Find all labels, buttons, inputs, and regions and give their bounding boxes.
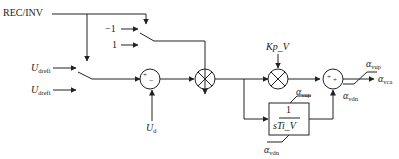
sum1-plus-sign: + [143, 72, 147, 79]
diagram-lines [0, 0, 399, 159]
sum2-plus-sign-2: + [333, 77, 337, 84]
output-lower-limit: αvdn [343, 91, 358, 103]
sum1-minus-sign: − [149, 77, 154, 85]
output-signal-label: αvca [378, 74, 392, 86]
mode-input-label: REC/INV [3, 8, 43, 18]
sum2-plus-sign-1: + [327, 74, 331, 81]
integrator-lower-limit: αvdn [264, 145, 279, 157]
integrator-numerator: 1 [286, 105, 291, 115]
ref2-label: Udrefi [31, 85, 51, 97]
measured-voltage-label: Ud [146, 123, 156, 135]
integrator-denominator: sTi_V [273, 121, 296, 131]
kp-gain-label: Kp_V [266, 42, 289, 52]
output-upper-limit: αvup [366, 59, 381, 71]
control-diagram: REC/INV −1 1 Udrefi Udrefi Ud + − Kp_V 1… [0, 0, 399, 159]
integrator-upper-limit: αvup [296, 87, 311, 99]
sign-positive-label: 1 [112, 40, 117, 50]
ref1-label: Udrefi [31, 63, 51, 75]
ref-switch [78, 72, 140, 79]
sign-negative-label: −1 [105, 24, 116, 34]
mode-to-sign-switch [52, 14, 146, 24]
